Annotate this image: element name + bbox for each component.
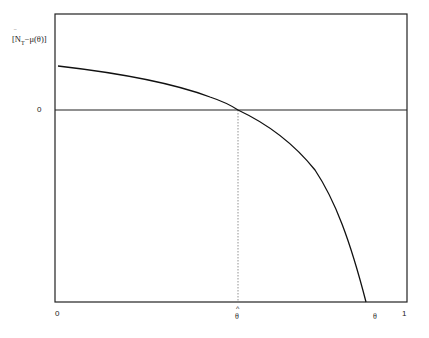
x-tick-theta: θ — [373, 313, 377, 321]
plot-area — [0, 0, 429, 338]
y-tick-zero: 0 — [37, 106, 41, 114]
y-axis-label: [N‾T−μ(θ)] — [12, 35, 47, 46]
x-tick-theta-hat-accent: ^ — [236, 305, 239, 312]
x-tick-zero: 0 — [55, 310, 59, 318]
curve — [58, 66, 366, 302]
x-tick-one: 1 — [402, 310, 406, 318]
x-tick-theta-hat: θ — [235, 313, 239, 321]
